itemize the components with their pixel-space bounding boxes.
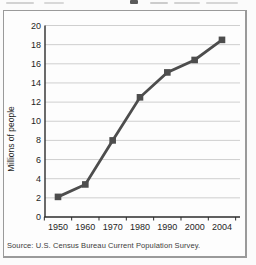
chart-panel: 0246810121416182019501960197019801990200… xyxy=(3,10,247,258)
line-chart: 0246810121416182019501960197019801990200… xyxy=(4,11,245,239)
y-tick-label: 0 xyxy=(36,212,41,222)
y-tick-label: 16 xyxy=(31,59,41,69)
x-tick-label: 1980 xyxy=(130,222,150,232)
data-point-marker xyxy=(191,57,198,64)
title-text-remnant xyxy=(44,2,64,4)
source-note: Source: U.S. Census Bureau Current Popul… xyxy=(7,241,237,250)
data-point-marker xyxy=(164,69,171,76)
title-text-remnant xyxy=(130,0,138,4)
x-tick-label: 1950 xyxy=(48,222,68,232)
y-tick-label: 12 xyxy=(31,97,41,107)
data-point-marker xyxy=(109,137,116,144)
x-tick-label: 2004 xyxy=(212,222,232,232)
title-text-remnant xyxy=(174,2,200,4)
y-tick-label: 2 xyxy=(36,193,41,203)
y-tick-label: 6 xyxy=(36,155,41,165)
cropped-figure-title xyxy=(0,0,256,6)
data-point-marker xyxy=(137,94,144,101)
x-tick-label: 2000 xyxy=(185,222,205,232)
data-point-marker xyxy=(82,181,89,188)
y-tick-label: 18 xyxy=(31,40,41,50)
y-tick-label: 4 xyxy=(36,174,41,184)
y-axis-title: Millions of people xyxy=(6,106,16,172)
title-text-remnant xyxy=(6,2,34,4)
y-tick-label: 20 xyxy=(31,21,41,31)
x-tick-label: 1990 xyxy=(157,222,177,232)
x-tick-label: 1960 xyxy=(75,222,95,232)
y-tick-label: 8 xyxy=(36,135,41,145)
figure-page: 0246810121416182019501960197019801990200… xyxy=(0,0,256,265)
y-tick-label: 14 xyxy=(31,78,41,88)
data-point-marker xyxy=(219,37,226,44)
data-point-marker xyxy=(55,194,62,201)
title-text-remnant xyxy=(206,2,238,4)
y-tick-label: 10 xyxy=(31,116,41,126)
title-text-remnant xyxy=(150,2,168,4)
x-tick-label: 1970 xyxy=(103,222,123,232)
